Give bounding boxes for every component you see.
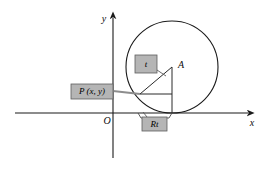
- point-p-label: P (x, y): [78, 86, 105, 96]
- x-axis-label: x: [249, 117, 255, 128]
- point-p-leader: [113, 91, 140, 94]
- arc-length-label: Rt: [150, 119, 159, 129]
- origin-label: O: [103, 115, 110, 126]
- cycloid-diagram-canvas: t P (x, y) Rt A y x O: [0, 0, 263, 178]
- point-a-label: A: [177, 59, 185, 70]
- geometry-figure: t P (x, y) Rt A y x O: [0, 0, 263, 178]
- y-axis-label: y: [101, 13, 107, 24]
